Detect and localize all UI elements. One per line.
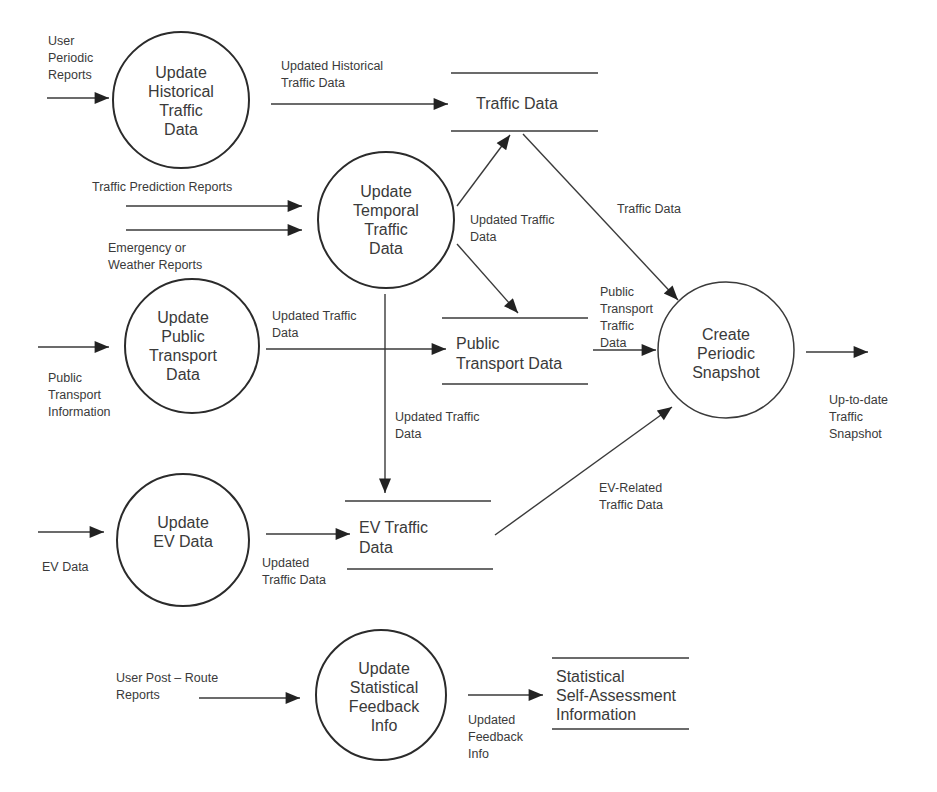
process-label: Info bbox=[371, 717, 398, 734]
flow-ev-related-traffic-data[interactable]: EV-Related Traffic Data bbox=[495, 407, 672, 535]
flow-label: Updated bbox=[468, 713, 515, 727]
process-label: EV Data bbox=[153, 533, 213, 550]
flow-ev-data[interactable]: EV Data bbox=[38, 532, 104, 574]
store-statistical-self-assessment-information[interactable]: Statistical Self-Assessment Information bbox=[552, 658, 689, 729]
svg-text:Weather Reports: Weather Reports bbox=[108, 258, 202, 272]
svg-text:Update: Update bbox=[155, 64, 207, 81]
flow-user-post-route-reports[interactable]: User Post – Route Reports bbox=[116, 671, 300, 702]
flow-label: EV-Related bbox=[599, 481, 662, 495]
svg-text:Data: Data bbox=[164, 121, 198, 138]
process-label: Periodic bbox=[697, 345, 755, 362]
flow-label: Data bbox=[395, 427, 421, 441]
process-label: Transport bbox=[149, 347, 217, 364]
flow-label: Data bbox=[272, 326, 298, 340]
flow-temporal-to-ev-store[interactable]: Updated Traffic Data bbox=[385, 294, 480, 493]
process-update-ev-data[interactable]: Update EV Data bbox=[117, 474, 249, 606]
flow-label: Traffic Data bbox=[599, 498, 663, 512]
process-label: Update bbox=[358, 660, 410, 677]
svg-text:Create: Create bbox=[702, 326, 750, 343]
flow-temporal-to-public-transport-store[interactable] bbox=[457, 244, 518, 313]
svg-text:Updated Traffic: Updated Traffic bbox=[272, 309, 357, 323]
svg-text:Updated Traffic: Updated Traffic bbox=[470, 213, 555, 227]
flow-public-transport-updated-traffic-data[interactable]: Updated Traffic Data bbox=[266, 309, 446, 349]
process-label: Public bbox=[161, 328, 205, 345]
process-update-statistical-feedback-info[interactable]: Update Statistical Feedback Info bbox=[316, 630, 446, 760]
svg-text:Traffic: Traffic bbox=[600, 319, 634, 333]
flow-label: Up-to-date bbox=[829, 393, 888, 407]
flow-label: Updated Traffic bbox=[470, 213, 555, 227]
svg-text:Data: Data bbox=[359, 539, 393, 556]
svg-text:Updated Traffic: Updated Traffic bbox=[395, 410, 480, 424]
flow-label: Data bbox=[470, 230, 496, 244]
svg-text:User Post – Route: User Post – Route bbox=[116, 671, 218, 685]
flow-label: User bbox=[48, 34, 74, 48]
svg-text:Updated: Updated bbox=[468, 713, 515, 727]
store-label: Traffic Data bbox=[476, 95, 558, 112]
process-update-historical-traffic-data[interactable]: Update Historical Traffic Data bbox=[113, 32, 249, 168]
process-label: Traffic bbox=[159, 102, 203, 119]
svg-text:EV Data: EV Data bbox=[153, 533, 213, 550]
store-label: Transport Data bbox=[456, 355, 562, 372]
store-ev-traffic-data[interactable]: EV Traffic Data bbox=[345, 501, 493, 569]
flow-updated-historical-traffic-data[interactable]: Updated Historical Traffic Data bbox=[271, 59, 448, 104]
svg-text:EV-Related: EV-Related bbox=[599, 481, 662, 495]
svg-text:Traffic Data: Traffic Data bbox=[476, 95, 558, 112]
flow-traffic-prediction-reports[interactable]: Traffic Prediction Reports bbox=[92, 180, 302, 206]
svg-text:Traffic: Traffic bbox=[159, 102, 203, 119]
store-label: Public bbox=[456, 335, 500, 352]
process-create-periodic-snapshot[interactable]: Create Periodic Snapshot bbox=[658, 282, 794, 418]
svg-text:Transport: Transport bbox=[48, 388, 102, 402]
store-public-transport-data[interactable]: Public Transport Data bbox=[442, 318, 588, 384]
svg-text:Reports: Reports bbox=[116, 688, 160, 702]
svg-text:Periodic: Periodic bbox=[48, 51, 93, 65]
process-update-temporal-traffic-data[interactable]: Update Temporal Traffic Data bbox=[318, 152, 454, 288]
flow-label: Snapshot bbox=[829, 427, 882, 441]
flow-public-transport-information[interactable]: Public Transport Information bbox=[38, 347, 111, 419]
svg-text:Traffic Prediction Reports: Traffic Prediction Reports bbox=[92, 180, 232, 194]
svg-text:Data: Data bbox=[166, 366, 200, 383]
svg-text:Public: Public bbox=[48, 371, 82, 385]
svg-text:Snapshot: Snapshot bbox=[829, 427, 882, 441]
svg-text:Traffic: Traffic bbox=[829, 410, 863, 424]
svg-text:Temporal: Temporal bbox=[353, 202, 419, 219]
flow-label: Weather Reports bbox=[108, 258, 202, 272]
flow-ev-updated-traffic-data[interactable]: Updated Traffic Data bbox=[262, 534, 350, 587]
flow-label: Information bbox=[48, 405, 111, 419]
process-label: Data bbox=[166, 366, 200, 383]
flow-label: Emergency or bbox=[108, 241, 186, 255]
arrow-down-right-icon bbox=[457, 244, 518, 313]
flow-public-transport-traffic-data-to-snapshot[interactable]: Public Transport Traffic Data bbox=[593, 285, 656, 350]
flow-label: Updated bbox=[262, 556, 309, 570]
svg-text:EV Data: EV Data bbox=[42, 560, 89, 574]
svg-text:Feedback: Feedback bbox=[468, 730, 524, 744]
svg-text:Emergency or: Emergency or bbox=[108, 241, 186, 255]
data-flow-diagram: Update Historical Traffic Data Update Te… bbox=[0, 0, 937, 792]
flow-label: Traffic Data bbox=[262, 573, 326, 587]
process-label: Data bbox=[164, 121, 198, 138]
process-label: Create bbox=[702, 326, 750, 343]
svg-text:Updated Historical: Updated Historical bbox=[281, 59, 383, 73]
flow-emergency-weather-reports[interactable]: Emergency or Weather Reports bbox=[108, 230, 302, 272]
svg-text:Self-Assessment: Self-Assessment bbox=[556, 687, 677, 704]
svg-text:Up-to-date: Up-to-date bbox=[829, 393, 888, 407]
flow-updated-feedback-info[interactable]: Updated Feedback Info bbox=[468, 695, 543, 761]
svg-text:Information: Information bbox=[556, 706, 636, 723]
process-label: Feedback bbox=[349, 698, 420, 715]
process-label: Traffic bbox=[364, 221, 408, 238]
flow-label: Updated Traffic bbox=[395, 410, 480, 424]
store-label: EV Traffic bbox=[359, 519, 428, 536]
flow-user-periodic-reports[interactable]: User Periodic Reports bbox=[47, 34, 109, 98]
process-label: Statistical bbox=[350, 679, 418, 696]
svg-text:Traffic Data: Traffic Data bbox=[617, 202, 681, 216]
store-traffic-data[interactable]: Traffic Data bbox=[451, 73, 598, 131]
flow-up-to-date-traffic-snapshot[interactable]: Up-to-date Traffic Snapshot bbox=[806, 352, 888, 441]
svg-text:Public: Public bbox=[600, 285, 634, 299]
process-update-public-transport-data[interactable]: Update Public Transport Data bbox=[125, 279, 259, 413]
flow-label: Feedback bbox=[468, 730, 524, 744]
arrow-up-right-icon bbox=[495, 407, 672, 535]
svg-text:Traffic Data: Traffic Data bbox=[599, 498, 663, 512]
svg-text:Data: Data bbox=[369, 240, 403, 257]
flow-label: Transport bbox=[600, 302, 654, 316]
process-label: Historical bbox=[148, 83, 214, 100]
svg-text:Update: Update bbox=[157, 514, 209, 531]
